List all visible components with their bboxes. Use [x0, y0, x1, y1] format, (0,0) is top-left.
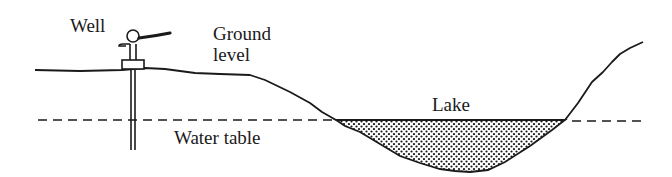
- lake-label: Lake: [432, 94, 470, 115]
- well-label: Well: [70, 15, 105, 36]
- well-pipe: [131, 70, 135, 150]
- well-pump-icon: [119, 30, 170, 69]
- ground-level-label-line2: level: [213, 44, 250, 65]
- ground-level-label-line1: Ground: [213, 23, 272, 44]
- lake-body: [336, 120, 565, 172]
- well-lake-water-table-diagram: Well Ground level Lake Water table: [0, 0, 672, 177]
- water-table-label: Water table: [174, 127, 261, 148]
- ground-level-line: [35, 42, 643, 120]
